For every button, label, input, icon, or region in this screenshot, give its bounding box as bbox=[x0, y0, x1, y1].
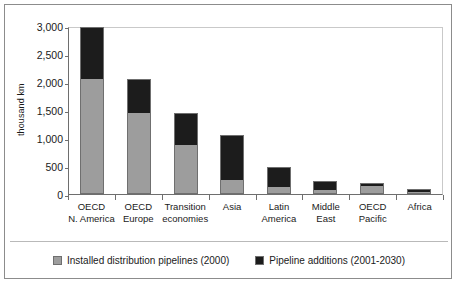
bar-segment-installed bbox=[267, 187, 291, 194]
x-axis-category-label: MiddleEast bbox=[302, 201, 349, 235]
legend-item[interactable]: Pipeline additions (2001-2030) bbox=[255, 255, 405, 266]
x-axis-label-line: OECD bbox=[349, 201, 396, 213]
x-axis-category-label: OECDEurope bbox=[115, 201, 162, 235]
x-axis-label-line: Africa bbox=[396, 201, 443, 213]
black-swatch-icon bbox=[255, 256, 264, 265]
y-axis-tick-mark bbox=[65, 84, 69, 85]
x-axis-label-line: OECD bbox=[68, 201, 115, 213]
x-axis-tick-marks bbox=[68, 195, 443, 200]
x-axis-tick-mark bbox=[256, 195, 257, 200]
bar-slot bbox=[209, 28, 256, 194]
stacked-bar[interactable] bbox=[360, 183, 384, 194]
x-axis-label-line: America bbox=[256, 213, 303, 225]
stacked-bar[interactable] bbox=[220, 135, 244, 194]
y-axis-tick-label: 1,500 bbox=[37, 106, 63, 116]
bar-segment-installed bbox=[174, 145, 198, 194]
bar-segment-additions bbox=[174, 113, 198, 145]
stacked-bar[interactable] bbox=[313, 181, 337, 194]
x-axis-category-label: Africa bbox=[396, 201, 443, 235]
bar-slot bbox=[395, 28, 442, 194]
stacked-bar[interactable] bbox=[267, 167, 291, 194]
bar-slot bbox=[116, 28, 163, 194]
y-axis-tick-label: 1,000 bbox=[37, 134, 63, 144]
y-axis-tick-mark bbox=[65, 112, 69, 113]
y-axis-tick-label: 500 bbox=[45, 162, 63, 172]
bar-segment-additions bbox=[80, 27, 104, 80]
bar-segment-installed bbox=[127, 113, 151, 194]
stacked-bar[interactable] bbox=[80, 27, 104, 194]
plot-area bbox=[68, 27, 443, 195]
x-axis-label-line: Transition bbox=[162, 201, 209, 213]
x-axis-label-line bbox=[209, 213, 256, 225]
x-axis-label-line: economies bbox=[162, 213, 209, 225]
x-axis-label-line: N. America bbox=[68, 213, 115, 225]
y-axis-tick-labels: 05001,0001,5002,0002,5003,000 bbox=[23, 27, 63, 195]
x-axis-label-line bbox=[396, 213, 443, 225]
bar-segment-installed bbox=[360, 186, 384, 194]
bar-segment-additions bbox=[220, 135, 244, 180]
bar-segment-additions bbox=[313, 181, 337, 190]
chart-plot-wrapper: thousand km 05001,0001,5002,0002,5003,00… bbox=[5, 5, 453, 280]
x-axis-tick-mark bbox=[396, 195, 397, 200]
x-axis-tick-mark bbox=[115, 195, 116, 200]
x-axis-tick-mark bbox=[443, 195, 444, 200]
bar-segment-installed bbox=[80, 79, 104, 194]
legend-label: Installed distribution pipelines (2000) bbox=[67, 255, 229, 266]
x-axis-category-labels: OECDN. AmericaOECDEuropeTransitioneconom… bbox=[68, 201, 443, 235]
bar-slot bbox=[162, 28, 209, 194]
x-axis-tick-mark bbox=[349, 195, 350, 200]
y-axis-tick-mark bbox=[65, 140, 69, 141]
bar-slot bbox=[349, 28, 396, 194]
x-axis-category-label: OECDPacific bbox=[349, 201, 396, 235]
stacked-bar[interactable] bbox=[127, 79, 151, 194]
x-axis-category-label: OECDN. America bbox=[68, 201, 115, 235]
x-axis-label-line: East bbox=[302, 213, 349, 225]
stacked-bar[interactable] bbox=[407, 189, 431, 194]
bar-segment-installed bbox=[407, 192, 431, 194]
bar-slot bbox=[256, 28, 303, 194]
x-axis-category-label: Asia bbox=[209, 201, 256, 235]
x-axis-label-line: Middle bbox=[302, 201, 349, 213]
x-axis-tick-mark bbox=[68, 195, 69, 200]
x-axis-label-line: OECD bbox=[115, 201, 162, 213]
x-axis-tick-mark bbox=[162, 195, 163, 200]
legend-label: Pipeline additions (2001-2030) bbox=[269, 255, 405, 266]
gray-swatch-icon bbox=[53, 256, 62, 265]
bar-segment-installed bbox=[313, 190, 337, 194]
bar-segment-additions bbox=[267, 167, 291, 187]
x-axis-category-label: Transitioneconomies bbox=[162, 201, 209, 235]
stacked-bar[interactable] bbox=[174, 113, 198, 194]
y-axis-tick-label: 2,000 bbox=[37, 78, 63, 88]
bar-slot bbox=[302, 28, 349, 194]
bar-segment-installed bbox=[220, 180, 244, 194]
bar-segment-additions bbox=[127, 79, 151, 113]
chart-frame: thousand km 05001,0001,5002,0002,5003,00… bbox=[4, 4, 452, 279]
y-axis-tick-label: 2,500 bbox=[37, 50, 63, 60]
x-axis-label-line: Latin bbox=[256, 201, 303, 213]
bar-group bbox=[69, 28, 442, 194]
y-axis-tick-label: 3,000 bbox=[37, 22, 63, 32]
legend-divider bbox=[10, 241, 448, 242]
x-axis-tick-mark bbox=[209, 195, 210, 200]
bar-slot bbox=[69, 28, 116, 194]
x-axis-label-line: Pacific bbox=[349, 213, 396, 225]
y-axis-tick-mark bbox=[65, 28, 69, 29]
legend-item[interactable]: Installed distribution pipelines (2000) bbox=[53, 255, 229, 266]
y-axis-tick-label: 0 bbox=[57, 190, 63, 200]
x-axis-label-line: Europe bbox=[115, 213, 162, 225]
y-axis-tick-mark bbox=[65, 56, 69, 57]
chart-legend: Installed distribution pipelines (2000)P… bbox=[10, 245, 448, 275]
x-axis-tick-mark bbox=[302, 195, 303, 200]
x-axis-category-label: LatinAmerica bbox=[256, 201, 303, 235]
x-axis-label-line: Asia bbox=[209, 201, 256, 213]
y-axis-tick-mark bbox=[65, 168, 69, 169]
